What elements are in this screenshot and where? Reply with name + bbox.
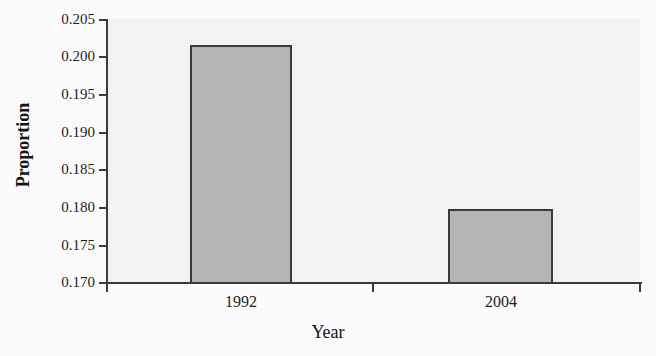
bar-2004 — [448, 209, 553, 284]
plot-area — [108, 19, 640, 283]
y-tick-label-0180: 0.180 — [39, 200, 95, 215]
y-tick-mark-0175 — [99, 245, 107, 247]
y-tick-mark-0200 — [99, 56, 107, 58]
y-tick-label-0200: 0.200 — [39, 49, 95, 64]
y-tick-label-0170: 0.170 — [39, 275, 95, 290]
y-tick-label-0205: 0.205 — [39, 12, 95, 27]
y-tick-mark-0180 — [99, 207, 107, 209]
bar-chart-figure: 0.205 0.200 0.195 0.190 0.185 0.180 0.17… — [0, 0, 656, 356]
x-axis-title: Year — [0, 322, 656, 342]
y-tick-mark-0190 — [99, 132, 107, 134]
y-tick-label-0195: 0.195 — [39, 87, 95, 102]
y-tick-label-0185: 0.185 — [39, 162, 95, 177]
x-tick-mark-right — [639, 283, 641, 292]
bar-1992 — [190, 45, 292, 284]
x-tick-label-1992: 1992 — [186, 293, 296, 311]
y-tick-label-0175: 0.175 — [39, 238, 95, 253]
x-tick-mark-middle — [372, 283, 374, 292]
y-tick-mark-0195 — [99, 94, 107, 96]
y-axis-title: Proportion — [13, 70, 33, 220]
y-tick-mark-0185 — [99, 169, 107, 171]
x-tick-label-2004: 2004 — [446, 293, 556, 311]
x-tick-mark-left — [106, 283, 108, 292]
y-tick-label-0190: 0.190 — [39, 125, 95, 140]
x-axis-line — [106, 282, 642, 284]
y-tick-mark-0205 — [99, 19, 107, 21]
